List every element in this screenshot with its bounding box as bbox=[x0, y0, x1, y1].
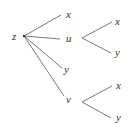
edge-v-y bbox=[82, 102, 111, 118]
tree-diagram: z x u y v x y x y bbox=[0, 0, 133, 130]
node-v: v bbox=[66, 93, 71, 105]
edge-u-x bbox=[82, 22, 112, 38]
edge-v-x bbox=[82, 86, 112, 102]
node-z: z bbox=[11, 30, 17, 42]
node-y-level1: y bbox=[63, 63, 69, 75]
node-u-x: x bbox=[114, 15, 120, 27]
node-v-x: x bbox=[115, 79, 121, 91]
node-v-y: y bbox=[115, 111, 121, 123]
node-u-y: y bbox=[114, 46, 120, 58]
node-x-level1: x bbox=[65, 8, 71, 20]
node-u: u bbox=[66, 32, 72, 44]
edge-z-v bbox=[24, 36, 64, 96]
edge-z-u bbox=[24, 36, 60, 39]
edge-z-x bbox=[24, 15, 61, 36]
root-node-dot bbox=[23, 35, 25, 37]
edge-u-y bbox=[82, 38, 111, 53]
edge-z-y bbox=[24, 36, 62, 68]
